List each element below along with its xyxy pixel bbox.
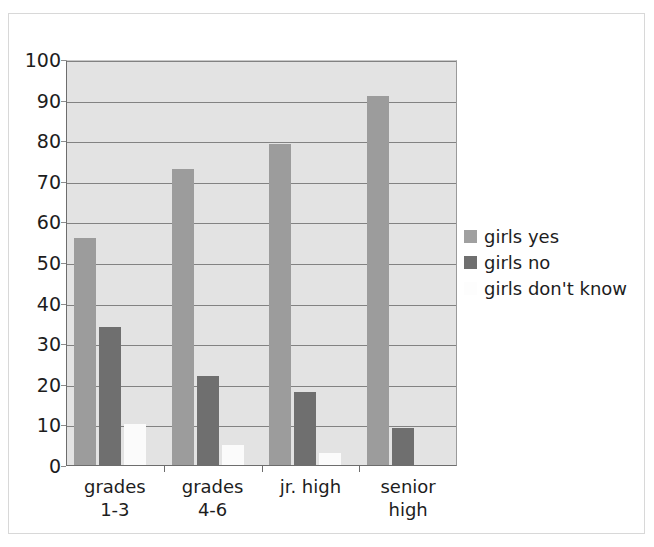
legend-swatch-girls-no (464, 256, 477, 269)
y-axis-tick-mark (61, 425, 66, 426)
legend-swatch-girls-dont-know (464, 282, 477, 295)
x-axis-tick-label-line: grades (66, 475, 164, 498)
y-axis-tick-mark (61, 141, 66, 142)
bar (294, 392, 316, 465)
y-axis-tick-label: 10 (15, 416, 61, 435)
x-axis-tick-label-line: senior (359, 475, 457, 498)
plot-area (66, 60, 457, 466)
figure-frame: 0102030405060708090100 grades1-3grades4-… (8, 13, 645, 534)
legend-entry-label: girls yes (484, 226, 559, 247)
x-axis-tick-label-line: high (359, 498, 457, 521)
bar (197, 376, 219, 465)
y-axis-tick-mark (61, 60, 66, 61)
legend-entry: girls don't know (464, 278, 644, 304)
legend-entry: girls yes (464, 226, 644, 252)
x-axis: grades1-3grades4-6jr. highseniorhigh (66, 475, 457, 535)
gridline (67, 102, 456, 103)
x-axis-tick-label-line: 1-3 (66, 498, 164, 521)
legend-entry-label: girls no (484, 252, 550, 273)
bar (222, 445, 244, 465)
y-axis-tick-mark (61, 101, 66, 102)
legend-entry-label: girls don't know (484, 278, 627, 299)
bar (269, 144, 291, 465)
x-axis-tick-mark (164, 466, 165, 472)
x-axis-tick-label-line: grades (164, 475, 262, 498)
bar (319, 453, 341, 465)
bar (124, 424, 146, 465)
y-axis-tick-label: 20 (15, 376, 61, 395)
bar (74, 238, 96, 465)
x-axis-tick-mark (359, 466, 360, 472)
gridline (67, 142, 456, 143)
y-axis-tick-mark (61, 304, 66, 305)
bar (172, 169, 194, 465)
y-axis-tick-label: 40 (15, 295, 61, 314)
y-axis-tick-label: 0 (15, 457, 61, 476)
y-axis-tick-label: 60 (15, 213, 61, 232)
x-axis-tick-label: seniorhigh (359, 475, 457, 521)
gridline (67, 345, 456, 346)
gridline (67, 386, 456, 387)
y-axis-tick-label: 90 (15, 92, 61, 111)
x-axis-tick-label: grades4-6 (164, 475, 262, 521)
y-axis-tick-mark (61, 263, 66, 264)
gridline (67, 61, 456, 62)
y-axis-tick-mark (61, 385, 66, 386)
y-axis: 0102030405060708090100 (9, 60, 61, 466)
gridline (67, 305, 456, 306)
y-axis-tick-mark (61, 182, 66, 183)
legend-entry: girls no (464, 252, 644, 278)
gridline (67, 223, 456, 224)
x-axis-tick-label-line: 4-6 (164, 498, 262, 521)
x-axis-tick-label: jr. high (262, 475, 360, 498)
x-axis-tick-mark (262, 466, 263, 472)
legend-swatch-girls-yes (464, 230, 477, 243)
gridline (67, 264, 456, 265)
y-axis-tick-label: 70 (15, 173, 61, 192)
y-axis-tick-mark (61, 344, 66, 345)
y-axis-tick-label: 100 (15, 51, 61, 70)
bar (392, 428, 414, 465)
x-axis-tick-label: grades1-3 (66, 475, 164, 521)
bar (99, 327, 121, 465)
y-axis-tick-label: 30 (15, 335, 61, 354)
x-axis-tick-label-line: jr. high (262, 475, 360, 498)
y-axis-tick-label: 80 (15, 132, 61, 151)
gridline (67, 183, 456, 184)
y-axis-tick-mark (61, 222, 66, 223)
y-axis-tick-label: 50 (15, 254, 61, 273)
y-axis-tick-mark (61, 466, 66, 467)
bar (367, 96, 389, 465)
chart-figure: 0102030405060708090100 grades1-3grades4-… (0, 0, 654, 547)
chart-legend: girls yesgirls nogirls don't know (464, 226, 644, 304)
